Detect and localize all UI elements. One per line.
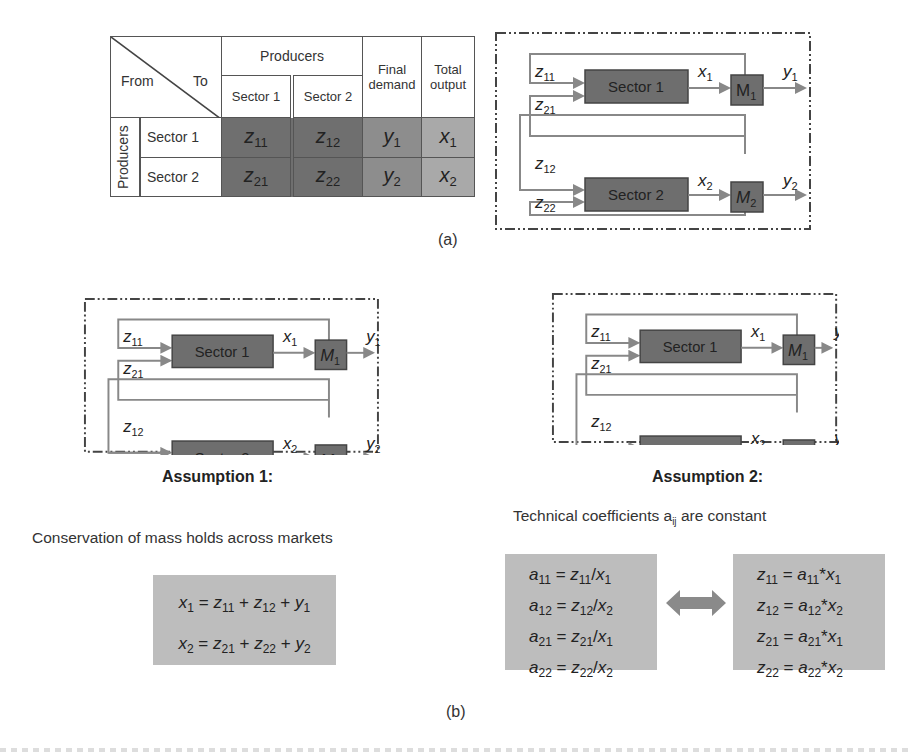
flow-line-z12: [530, 96, 745, 154]
input-output-table: From To Producers Final demand Total out…: [110, 36, 475, 197]
label-x1: x1: [697, 62, 713, 83]
label-z21: z21: [534, 95, 556, 116]
equation-line: z21 = a21*x1: [757, 624, 885, 655]
equation-line: z11 = a11*x1: [757, 562, 885, 593]
cell-value: x2: [439, 164, 456, 186]
table-cell: z12: [292, 118, 363, 158]
panel-b-label: (b): [446, 703, 466, 721]
label-x1: x1: [282, 327, 297, 348]
label-x2: x2: [750, 429, 765, 445]
flow-line-z12: [118, 361, 329, 418]
label-z12: z12: [534, 154, 556, 175]
equation-line: a11 = z11/x1: [529, 562, 657, 593]
corner-to-label: To: [193, 73, 208, 89]
row-label-sector-1: Sector 1: [141, 118, 221, 158]
flow-equation-box: z11 = a11*x1z12 = a12*x2z21 = a21*x1z22 …: [733, 554, 885, 670]
table-cell: y1: [363, 118, 422, 158]
sector-1-label: Sector 1: [608, 78, 664, 95]
double-arrow-icon: [666, 588, 726, 622]
table-cell: x1: [422, 118, 475, 158]
table-cell: z11: [222, 118, 293, 158]
equation-line: a22 = z22/x2: [529, 655, 657, 686]
assumption-2-title: Assumption 2:: [652, 468, 763, 486]
assumption-2-description-pre: Technical coefficients a: [513, 507, 672, 524]
cell-value: x1: [439, 125, 456, 147]
corner-from-label: From: [121, 73, 154, 89]
cell-value: y1: [383, 125, 400, 147]
cell-value: z22: [316, 164, 340, 186]
label-x2: x2: [697, 171, 713, 192]
flow-line-z12: [586, 356, 797, 413]
label-y1: y1: [782, 62, 798, 83]
sector-1-label: Sector 1: [663, 339, 718, 355]
label-z22: z22: [534, 193, 556, 214]
table-cell: y2: [363, 157, 422, 197]
total-output-header: Total output: [422, 37, 475, 118]
label-y2: y2: [782, 171, 798, 192]
sector-2-label: Sector 2: [195, 450, 250, 455]
corner-cell: From To: [111, 37, 222, 118]
assumption-2-description: Technical coefficients aij are constant: [513, 507, 766, 527]
label-x1: x1: [750, 322, 765, 343]
coefficient-equation-box: a11 = z11/x1a12 = z12/x2a21 = z21/x1a22 …: [505, 554, 657, 670]
sector-1-label: Sector 1: [195, 344, 250, 360]
label-z11: z11: [122, 327, 143, 348]
equation-line: z22 = a22*x2: [757, 655, 885, 686]
sector-2-label: Sector 2: [608, 186, 664, 203]
sector-2-box: [640, 436, 741, 445]
flow-diagram-a: Sector 1Sector 2M1M2z11z21z12z22x1x2y1y2: [493, 30, 813, 236]
assumption-1-equation-box: x1 = z11 + z12 + y1x2 = z21 + z22 + y2: [153, 575, 336, 665]
assumption-2-description-post: are constant: [677, 507, 767, 524]
equation-line: a12 = z12/x2: [529, 593, 657, 624]
cell-value: z21: [244, 164, 268, 186]
col-header-sector-1: Sector 1: [222, 76, 293, 118]
final-demand-header: Final demand: [363, 37, 422, 118]
label-z12: z12: [590, 412, 611, 433]
table-row: ProducersSector 1Sector 2z11z12y1x1: [111, 118, 475, 158]
cell-value: y2: [383, 164, 400, 186]
col-header-sector-2: Sector 2: [292, 76, 363, 118]
label-y1: y1: [833, 322, 839, 343]
equation-line: x2 = z21 + z22 + y2: [153, 626, 336, 667]
table-cell: z21: [222, 157, 293, 197]
cell-value: z12: [316, 125, 340, 147]
row-group-producers: Producers: [111, 118, 135, 196]
table-cell: x2: [422, 157, 475, 197]
row-label-sector-2: Sector 2: [141, 158, 221, 197]
equation-line: a21 = z21/x1: [529, 624, 657, 655]
equation-line: z12 = a12*x2: [757, 593, 885, 624]
label-z21: z21: [122, 359, 143, 380]
label-z11: z11: [534, 62, 555, 83]
assumption-1-description: Conservation of mass holds across market…: [32, 529, 333, 547]
label-x2: x2: [282, 434, 297, 455]
equation-line: x1 = z11 + z12 + y1: [153, 585, 336, 626]
clipped-figure-caption: [0, 744, 913, 752]
row-group-label: ProducersSector 1Sector 2: [111, 118, 222, 197]
producers-header: Producers: [222, 37, 363, 76]
label-y2: y2: [833, 429, 839, 445]
flow-diagram-assumption-2: Sector 1Sector 2M1M2z11z21z12z22x1x2y1y2: [550, 291, 839, 449]
flow-diagram-assumption-1: Sector 1Sector 2M1M2z11z21z12z22x1x2y1y2: [82, 296, 381, 459]
label-z21: z21: [590, 354, 611, 375]
label-z11: z11: [590, 322, 611, 343]
table-cell: z22: [292, 157, 363, 197]
flow-line-z21: [576, 374, 796, 445]
assumption-1-title: Assumption 1:: [162, 468, 273, 486]
label-z12: z12: [122, 417, 143, 438]
cell-value: z11: [244, 125, 268, 147]
market-2-box: [783, 440, 814, 445]
panel-a-label: (a): [438, 231, 458, 249]
